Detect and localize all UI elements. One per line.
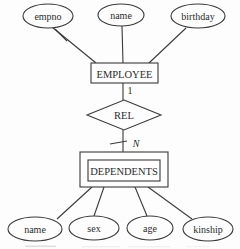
- edge-dependents-kinship: [148, 187, 192, 219]
- cardinality-label-1: 1: [128, 85, 133, 96]
- er-diagram-page: empno name birthday EMPLOYEE 1 REL N DEP…: [0, 0, 240, 249]
- edge-dependents-name: [57, 187, 92, 219]
- entity-label-employee: EMPLOYEE: [97, 69, 153, 80]
- edge-dependents-sex: [94, 187, 104, 216]
- relationship-label-rel: REL: [114, 110, 134, 121]
- attribute-label-sex: sex: [87, 223, 100, 234]
- attribute-label-birthday: birthday: [181, 11, 214, 22]
- attribute-label-name-top: name: [110, 10, 132, 21]
- cropped-caption-artifact: [25, 246, 56, 248]
- edge-dependents-age: [135, 187, 147, 216]
- key-attribute-slash-tick: [55, 29, 67, 41]
- er-diagram-canvas: empno name birthday EMPLOYEE 1 REL N DEP…: [0, 0, 240, 249]
- edge-name-employee: [122, 26, 123, 63]
- attribute-label-name-bottom: name: [24, 224, 46, 235]
- cropped-caption-artifact: [82, 246, 120, 247]
- entity-label-dependents: DEPENDENTS: [90, 166, 158, 177]
- attribute-label-empno: empno: [34, 11, 61, 22]
- attribute-label-kinship: kinship: [193, 224, 222, 235]
- cropped-caption-artifact: [128, 246, 170, 247]
- attribute-label-age: age: [143, 223, 157, 234]
- dependents-edge-tick-mark: [110, 141, 127, 144]
- cardinality-label-n: N: [132, 138, 141, 149]
- edge-birthday-employee: [149, 28, 186, 63]
- cropped-caption-artifact: [186, 246, 210, 247]
